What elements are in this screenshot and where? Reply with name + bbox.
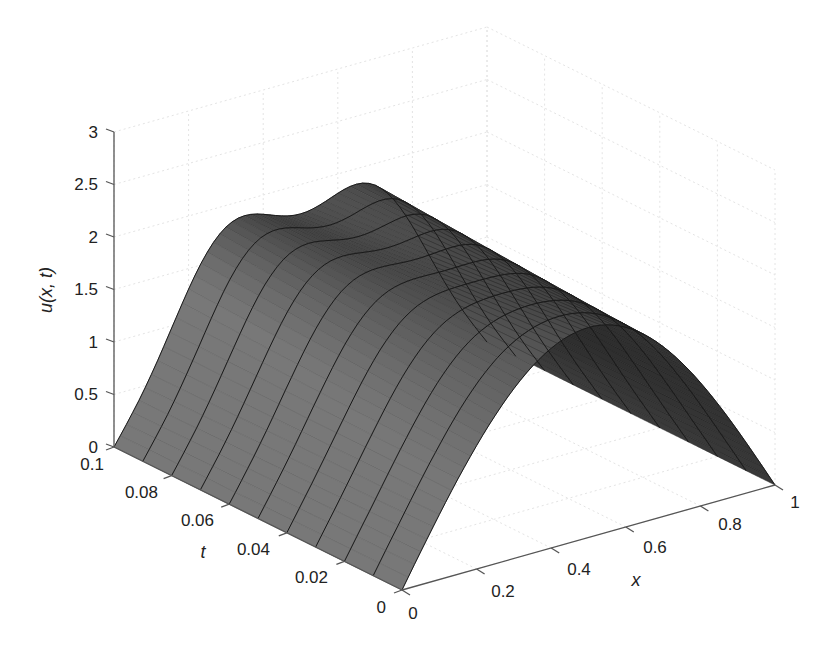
grid-line bbox=[487, 132, 775, 275]
tick-mark bbox=[106, 129, 114, 132]
x-tick-label: 0 bbox=[408, 604, 417, 623]
grid-line bbox=[487, 80, 775, 223]
z-tick-label: 1.5 bbox=[74, 280, 98, 299]
tick-mark bbox=[106, 234, 114, 237]
grid-line bbox=[114, 27, 487, 132]
t-tick-label: 0.08 bbox=[125, 483, 158, 502]
z-tick-label: 1 bbox=[89, 333, 98, 352]
tick-mark bbox=[626, 527, 634, 532]
z-tick-label: 2 bbox=[89, 228, 98, 247]
grid-line bbox=[114, 80, 487, 185]
tick-mark bbox=[551, 548, 559, 553]
tick-mark bbox=[106, 392, 114, 395]
grid-line bbox=[487, 27, 775, 170]
z-tick-label: 0.5 bbox=[74, 385, 98, 404]
tick-mark bbox=[106, 182, 114, 185]
tick-mark bbox=[164, 476, 172, 479]
x-tick-label: 0.6 bbox=[643, 538, 667, 557]
z-axis-label: u(x, t) bbox=[36, 267, 56, 313]
t-axis-label: t bbox=[200, 542, 206, 562]
x-tick-label: 0.4 bbox=[567, 560, 591, 579]
z-tick-label: 2.5 bbox=[74, 175, 98, 194]
tick-mark bbox=[402, 590, 410, 595]
x-tick-label: 0.2 bbox=[491, 582, 515, 601]
tick-mark bbox=[106, 444, 114, 447]
tick-mark bbox=[477, 569, 485, 574]
tick-mark bbox=[394, 590, 402, 593]
tick-mark bbox=[279, 533, 287, 536]
tick-mark bbox=[221, 504, 229, 507]
x-axis-label: x bbox=[631, 570, 642, 590]
z-tick-label: 3 bbox=[89, 123, 98, 142]
tick-mark bbox=[106, 447, 114, 450]
t-tick-label: 0.04 bbox=[237, 540, 270, 559]
tick-mark bbox=[106, 339, 114, 342]
tick-mark bbox=[775, 485, 783, 490]
t-tick-label: 0 bbox=[377, 598, 386, 617]
tick-mark bbox=[700, 506, 708, 511]
x-tick-label: 1 bbox=[790, 493, 799, 512]
t-tick-label: 0.02 bbox=[295, 568, 328, 587]
surface-plot: 0 0.5 1 1.5 2 2.5 3 0.1 0.08 0.06 0.04 0… bbox=[0, 0, 828, 651]
x-tick-label: 0.8 bbox=[718, 515, 742, 534]
tick-mark bbox=[336, 561, 344, 564]
tick-mark bbox=[106, 287, 114, 290]
t-tick-label: 0.1 bbox=[80, 455, 104, 474]
t-tick-label: 0.06 bbox=[181, 511, 214, 530]
